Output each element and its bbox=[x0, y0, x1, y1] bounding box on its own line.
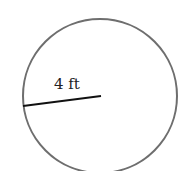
circle-diagram: 4 ft bbox=[0, 0, 186, 171]
circle-outline bbox=[23, 19, 177, 171]
radius-line bbox=[23, 96, 101, 106]
radius-label: 4 ft bbox=[54, 75, 80, 93]
